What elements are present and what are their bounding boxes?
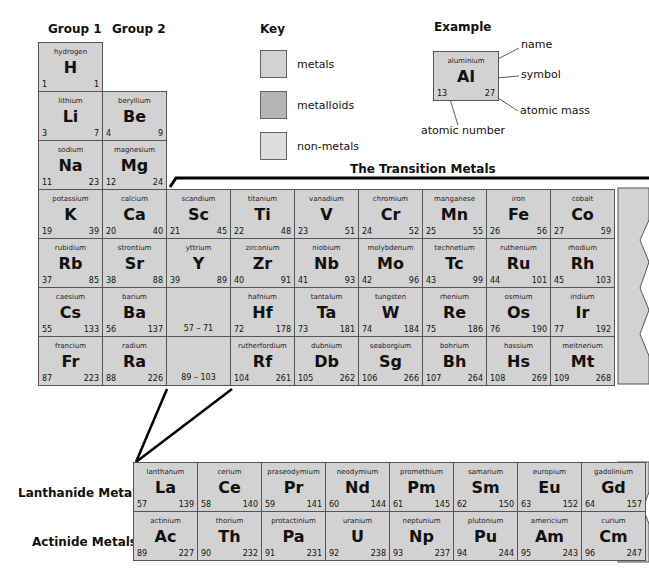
element-name: strontium bbox=[103, 244, 166, 252]
atomic-number: 74 bbox=[362, 325, 372, 334]
element-symbol: Cr bbox=[359, 205, 422, 224]
element-symbol: Pu bbox=[454, 527, 517, 546]
atomic-mass: 1 bbox=[94, 80, 99, 89]
lanthanide-header: Lanthanide Metals bbox=[18, 486, 143, 500]
element-symbol: Eu bbox=[518, 478, 581, 497]
atomic-number: 41 bbox=[298, 276, 308, 285]
atomic-number: 11 bbox=[42, 178, 52, 187]
element-cell-W: tungstenW74184 bbox=[358, 287, 423, 337]
range-label: 57 – 71 bbox=[167, 324, 230, 333]
atomic-number: 89 bbox=[137, 549, 147, 558]
element-cell-Ac: actiniumAc89227 bbox=[133, 511, 198, 561]
atomic-mass: 96 bbox=[409, 276, 419, 285]
atomic-mass: 262 bbox=[340, 374, 355, 383]
element-cell-Nb: niobiumNb4193 bbox=[294, 238, 359, 288]
element-name: molybdenum bbox=[359, 244, 422, 252]
key-label-metalloids: metalloids bbox=[297, 99, 354, 112]
atomic-mass: 9 bbox=[158, 129, 163, 138]
element-symbol: Ir bbox=[551, 303, 614, 322]
element-name: scandium bbox=[167, 195, 230, 203]
element-name: rhenium bbox=[423, 293, 486, 301]
key-swatch-metals bbox=[260, 50, 287, 78]
element-cell-Sg: seaborgiumSg106266 bbox=[358, 336, 423, 386]
atomic-mass: 152 bbox=[563, 500, 578, 509]
element-symbol: Th bbox=[198, 527, 261, 546]
element-symbol: Sm bbox=[454, 478, 517, 497]
label-name: name bbox=[521, 38, 552, 51]
element-symbol: V bbox=[295, 205, 358, 224]
element-name: yttrium bbox=[167, 244, 230, 252]
atomic-mass: 227 bbox=[179, 549, 194, 558]
element-cell-Nd: neodymiumNd60144 bbox=[325, 462, 390, 512]
atomic-number: 58 bbox=[201, 500, 211, 509]
element-name: promethium bbox=[390, 468, 453, 476]
element-name: magnesium bbox=[103, 146, 166, 154]
atomic-mass: 186 bbox=[468, 325, 483, 334]
atomic-mass: 52 bbox=[409, 227, 419, 236]
element-name: neptunium bbox=[390, 517, 453, 525]
element-symbol: Gd bbox=[582, 478, 645, 497]
atomic-number: 77 bbox=[554, 325, 564, 334]
key-label-non-metals: non-metals bbox=[297, 140, 359, 153]
actinide-header: Actinide Metals bbox=[32, 535, 137, 549]
label-mass: atomic mass bbox=[520, 104, 590, 117]
atomic-mass: 141 bbox=[307, 500, 322, 509]
atomic-mass: 88 bbox=[153, 276, 163, 285]
element-cell-H: hydrogenH11 bbox=[38, 42, 103, 92]
atomic-number: 87 bbox=[42, 374, 52, 383]
element-symbol: Pa bbox=[262, 527, 325, 546]
element-symbol: Fr bbox=[39, 352, 102, 371]
atomic-mass: 139 bbox=[179, 500, 194, 509]
atomic-number: 73 bbox=[298, 325, 308, 334]
element-name: zirconium bbox=[231, 244, 294, 252]
element-symbol: Cm bbox=[582, 527, 645, 546]
atomic-number: 24 bbox=[362, 227, 372, 236]
element-cell-Cr: chromiumCr2452 bbox=[358, 189, 423, 239]
key-header: Key bbox=[260, 22, 285, 36]
atomic-number: 63 bbox=[521, 500, 531, 509]
key-swatch-metalloids bbox=[260, 91, 287, 119]
atomic-number: 40 bbox=[234, 276, 244, 285]
element-name: hassium bbox=[487, 342, 550, 350]
element-symbol: Cs bbox=[39, 303, 102, 322]
element-symbol: Rb bbox=[39, 254, 102, 273]
atomic-mass: 268 bbox=[596, 374, 611, 383]
atomic-number: 43 bbox=[426, 276, 436, 285]
element-name: cobalt bbox=[551, 195, 614, 203]
element-cell-Ce: ceriumCe58140 bbox=[197, 462, 262, 512]
element-symbol: W bbox=[359, 303, 422, 322]
atomic-mass: 55 bbox=[473, 227, 483, 236]
element-cell-Np: neptuniumNp93237 bbox=[389, 511, 454, 561]
element-name: hydrogen bbox=[39, 48, 102, 56]
element-name: plutonium bbox=[454, 517, 517, 525]
element-name: lanthanum bbox=[134, 468, 197, 476]
atomic-number: 90 bbox=[201, 549, 211, 558]
element-symbol: Sr bbox=[103, 254, 166, 273]
atomic-mass: 264 bbox=[468, 374, 483, 383]
element-name: hafnium bbox=[231, 293, 294, 301]
element-name: gadolinium bbox=[582, 468, 645, 476]
example-cell: aluminium Al 13 27 bbox=[433, 51, 499, 101]
element-cell-Cs: caesiumCs55133 bbox=[38, 287, 103, 337]
atomic-mass: 103 bbox=[596, 276, 611, 285]
atomic-number: 104 bbox=[234, 374, 249, 383]
element-name: actinium bbox=[134, 517, 197, 525]
element-cell-Ra: radiumRa88226 bbox=[102, 336, 167, 386]
atomic-number: 23 bbox=[298, 227, 308, 236]
element-name: francium bbox=[39, 342, 102, 350]
element-name: beryllium bbox=[103, 97, 166, 105]
atomic-mass: 85 bbox=[89, 276, 99, 285]
example-symbol: Al bbox=[434, 67, 498, 86]
element-name: vanadium bbox=[295, 195, 358, 203]
element-symbol: Nb bbox=[295, 254, 358, 273]
element-name: manganese bbox=[423, 195, 486, 203]
element-symbol: H bbox=[39, 58, 102, 77]
element-symbol: Tc bbox=[423, 254, 486, 273]
atomic-mass: 137 bbox=[148, 325, 163, 334]
atomic-number: 106 bbox=[362, 374, 377, 383]
element-cell-Ir: iridiumIr77192 bbox=[550, 287, 615, 337]
atomic-number: 108 bbox=[490, 374, 505, 383]
element-symbol: Li bbox=[39, 107, 102, 126]
atomic-mass: 40 bbox=[153, 227, 163, 236]
atomic-number: 76 bbox=[490, 325, 500, 334]
